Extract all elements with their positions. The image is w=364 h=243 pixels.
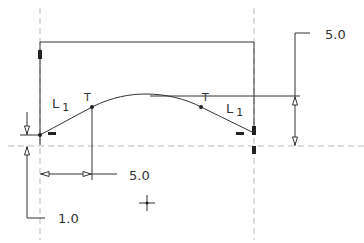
label-tangent-right: T [201,91,209,104]
sketch-canvas[interactable]: L1 T T L1 5.0 5.0 1.0 [0,0,364,243]
arrow-up-icon [293,97,298,105]
label-tangent-left: T [83,91,91,104]
tangent-point-left [90,105,94,109]
dimension-offset-value[interactable]: 1.0 [58,211,79,226]
arrow-up-icon [25,147,30,155]
vertical-constraint-icon [252,126,256,135]
horizontal-constraint-icon [48,132,56,135]
arrow-right-icon [83,172,91,177]
arrow-down-icon [25,126,30,134]
tangent-point-right [199,105,203,109]
dimension-height-value[interactable]: 5.0 [325,27,346,42]
outer-rectangle[interactable] [40,42,254,145]
arrow-left-icon [41,172,49,177]
vertex-point [38,133,42,137]
label-l1-right: L1 [226,101,243,119]
crosshair-center [146,202,149,205]
vertical-constraint-icon [252,146,256,154]
dimension-width-value[interactable]: 5.0 [129,168,150,183]
label-l1-left: L1 [52,96,69,114]
height-dimension-leader[interactable] [295,33,310,146]
vertical-constraint-icon [38,50,42,59]
arrow-down-icon [293,137,298,145]
horizontal-constraint-icon [236,132,244,135]
offset-dimension-leader[interactable] [27,146,45,218]
